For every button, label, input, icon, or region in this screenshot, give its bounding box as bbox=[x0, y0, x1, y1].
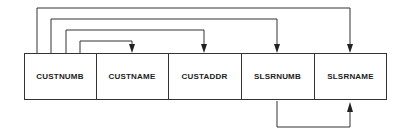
arrow-slsrnumb-slsrname bbox=[277, 101, 350, 127]
field-custnumb: CUSTNUMB bbox=[24, 53, 96, 100]
field-custname: CUSTNAME bbox=[96, 53, 168, 100]
field-slsrnumb: SLSRNUMB bbox=[241, 53, 314, 100]
dependency-diagram: CUSTNUMB CUSTNAME CUSTADDR SLSRNUMB SLSR… bbox=[0, 0, 407, 134]
field-custaddr: CUSTADDR bbox=[168, 53, 241, 100]
arrow-custnumb-custname bbox=[80, 41, 132, 53]
field-slsrname: SLSRNAME bbox=[314, 53, 387, 100]
arrow-custnumb-slsrnumb bbox=[51, 19, 277, 53]
